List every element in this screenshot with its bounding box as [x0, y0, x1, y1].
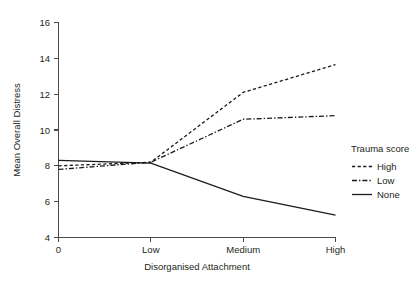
legend-item-high[interactable]: High	[352, 161, 397, 172]
legend-label-none: None	[377, 189, 400, 200]
data-series-group	[59, 65, 336, 216]
legend-title: Trauma score	[351, 143, 409, 154]
x-tick-label-medium: Medium	[226, 244, 260, 255]
y-tick-label-10: 10	[39, 125, 50, 136]
legend-item-none[interactable]: None	[352, 189, 400, 200]
figure-caption	[0, 276, 418, 286]
series-line-high	[59, 65, 336, 166]
x-tick-label-low: Low	[142, 244, 160, 255]
x-axis-ticks	[59, 238, 336, 243]
y-axis-ticks	[54, 23, 59, 238]
y-axis-title: Mean Overall Distress	[11, 83, 22, 177]
x-tick-label-0: 0	[56, 244, 61, 255]
x-tick-label-high: High	[326, 244, 346, 255]
y-tick-label-8: 8	[45, 160, 50, 171]
y-tick-label-14: 14	[39, 53, 50, 64]
x-axis-title: Disorganised Attachment	[144, 261, 250, 272]
legend-label-low: Low	[377, 175, 395, 186]
plot-axes	[59, 22, 336, 238]
x-axis-tick-labels: 0 Low Medium High	[56, 244, 345, 255]
series-line-none	[59, 160, 336, 215]
legend-item-low[interactable]: Low	[352, 175, 395, 186]
legend-label-high: High	[377, 161, 397, 172]
legend: Trauma score High Low None	[351, 143, 409, 200]
y-tick-label-16: 16	[39, 17, 50, 28]
y-tick-label-4: 4	[45, 232, 50, 243]
y-axis-tick-labels: 16 14 12 10 8 6 4	[39, 17, 50, 243]
y-tick-label-12: 12	[39, 89, 50, 100]
figure-container: 16 14 12 10 8 6 4 0 Low Medium High Diso…	[0, 0, 418, 286]
line-chart: 16 14 12 10 8 6 4 0 Low Medium High Diso…	[0, 0, 418, 286]
y-tick-label-6: 6	[45, 196, 50, 207]
